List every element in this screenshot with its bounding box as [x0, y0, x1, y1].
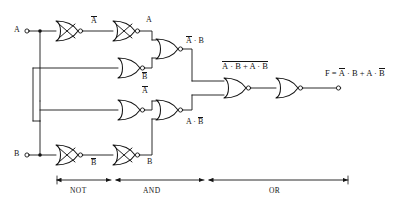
output-term2-bar: B: [379, 68, 385, 78]
output-prefix: F =: [325, 68, 339, 78]
label-nor-mid: A · B + A · B: [222, 61, 268, 71]
output-f-label: F = A · B + A · B: [325, 68, 385, 78]
input-a-label: A: [14, 26, 20, 34]
mid-expression-bar: A · B + A · B: [222, 61, 268, 71]
label-a-top: A: [146, 16, 152, 24]
label-nand-top: A · B: [186, 36, 204, 45]
mid-seg-mid: · B + A ·: [228, 61, 262, 71]
stage-label-not: NOT: [70, 186, 87, 195]
a-bar-text-2: A: [142, 86, 148, 95]
label-a-bar-mid: A: [142, 86, 148, 95]
input-b-label: B: [14, 150, 19, 158]
circuit-schematic: [0, 0, 402, 201]
stage-label-or: OR: [269, 186, 280, 195]
b-bar-text: B: [142, 72, 147, 81]
nand-top-rest: · B: [192, 36, 204, 45]
logic-circuit-diagram: A B A A B A B B A · B A · B A · B + A · …: [0, 0, 402, 201]
stage-label-and: AND: [143, 186, 160, 195]
nand-bot-pre: A ·: [186, 117, 198, 126]
label-a-bar-top: A: [91, 16, 97, 25]
b-bar-text-2: B: [91, 158, 96, 167]
label-b-bar-mid: B: [142, 72, 147, 81]
mid-seg-b: B: [262, 61, 268, 71]
nand-bot-bar: B: [198, 117, 203, 126]
label-b-bar-bot: B: [91, 158, 96, 167]
label-nand-bottom: A · B: [186, 117, 203, 126]
a-bar-text: A: [91, 16, 97, 25]
output-term1-rest: · B + A ·: [345, 68, 379, 78]
label-b-bot: B: [147, 158, 152, 166]
